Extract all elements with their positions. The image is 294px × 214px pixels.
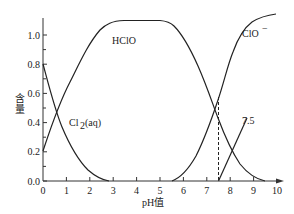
label-hclo: HClO <box>112 35 136 46</box>
x-axis-arrow-icon <box>276 179 284 184</box>
svg-text:6: 6 <box>181 185 186 196</box>
svg-text:10: 10 <box>272 185 282 196</box>
svg-text:3: 3 <box>111 185 116 196</box>
svg-text:−: − <box>262 23 268 34</box>
label-clo: ClO − <box>242 23 268 39</box>
svg-text:7: 7 <box>204 185 209 196</box>
series-hclo <box>43 21 265 182</box>
svg-text:2: 2 <box>87 185 92 196</box>
x-ticks <box>66 177 253 181</box>
label-cl2: Cl 2 (aq) <box>69 117 101 131</box>
svg-text:ClO: ClO <box>242 28 259 39</box>
svg-text:0.0: 0.0 <box>28 176 41 187</box>
svg-text:0: 0 <box>41 185 46 196</box>
svg-text:0.4: 0.4 <box>28 117 41 128</box>
svg-text:0.2: 0.2 <box>28 146 41 157</box>
x-axis-title: pH值 <box>142 196 164 208</box>
y-axis-title-bottom: 量 <box>15 104 25 115</box>
chart: 0.0 0.2 0.4 0.6 0.8 1.0 0 1 2 3 4 5 6 7 … <box>0 0 294 214</box>
y-tick-labels: 0.0 0.2 0.4 0.6 0.8 1.0 <box>28 30 41 187</box>
svg-text:(aq): (aq) <box>85 117 101 129</box>
svg-text:1: 1 <box>64 185 69 196</box>
svg-text:0.8: 0.8 <box>28 59 41 70</box>
x-tick-labels: 0 1 2 3 4 5 6 7 8 9 10 <box>41 185 283 196</box>
svg-text:5: 5 <box>158 185 163 196</box>
svg-text:4: 4 <box>134 185 139 196</box>
svg-text:0.6: 0.6 <box>28 88 41 99</box>
svg-text:9: 9 <box>251 185 256 196</box>
guide-line-7-5 <box>219 118 248 181</box>
series-clo <box>172 14 276 181</box>
svg-text:Cl: Cl <box>69 117 79 128</box>
y-axis-title-top: 含 <box>15 92 25 104</box>
label-7-5-visible: 7.5 <box>242 115 255 126</box>
svg-text:8: 8 <box>228 185 233 196</box>
y-ticks <box>43 35 47 181</box>
svg-text:1.0: 1.0 <box>28 30 41 41</box>
